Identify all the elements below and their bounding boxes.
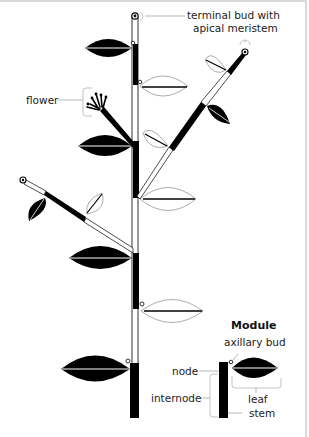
terminal-bud-label-line1: terminal bud with — [187, 9, 280, 21]
plant-illustration — [0, 0, 309, 437]
stem-label: stem — [249, 407, 275, 419]
right-branch — [137, 40, 250, 199]
leaf-outline-2 — [138, 76, 188, 96]
left-branch — [20, 177, 133, 253]
leaf-black-5 — [69, 246, 132, 269]
terminal-bud-label-line2: apical meristem — [193, 22, 278, 34]
main-stem — [130, 17, 139, 418]
leaf-label: leaf — [248, 393, 268, 405]
terminal-bud-main — [132, 12, 185, 21]
axillary-bud-label: axillary bud — [224, 336, 286, 348]
leaf-black-1 — [85, 39, 135, 57]
node-label: node — [172, 365, 198, 377]
plant-module-diagram: terminal bud with apical meristem flower… — [0, 0, 309, 437]
module-title: Module — [231, 319, 276, 332]
leaf-black-3 — [78, 135, 132, 156]
internode-label: internode — [151, 392, 202, 404]
flower-label: flower — [26, 94, 58, 106]
leaf-black-7 — [61, 356, 130, 382]
leaf-outline-4 — [140, 188, 196, 211]
leaf-outline-6 — [140, 300, 203, 323]
